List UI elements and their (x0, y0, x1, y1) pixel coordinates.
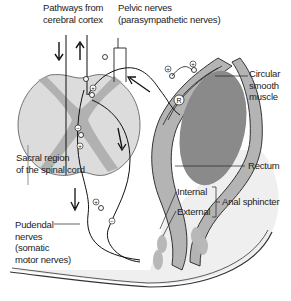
pelvic-nerves-label: Pelvic nerves (parasympathetic nerves) (118, 2, 220, 25)
receptor-symbol: R (174, 95, 184, 105)
neuron-node (84, 77, 89, 82)
circular-muscle-synapse (172, 67, 192, 76)
neuron-node (103, 55, 108, 60)
external-sphincter-right (198, 237, 208, 255)
svg-text:R: R (176, 97, 181, 104)
sensory-arrow-icon (128, 77, 150, 92)
up-arrow-icon (76, 42, 84, 60)
neuron-node (79, 133, 84, 138)
external-label: External (177, 206, 210, 218)
pathways-label: Pathways from cerebral cortex (43, 2, 103, 25)
rectum-label: Rectum (248, 160, 280, 172)
svg-text:+: + (191, 61, 195, 67)
internal-label: Internal (177, 186, 207, 198)
svg-text:−: − (76, 125, 80, 131)
sacral-region-label: Sacral region of the spinal cord (16, 152, 85, 175)
down-arrow-icon (55, 42, 63, 60)
neuron-node (99, 206, 104, 211)
pelvic-nerve-bracket (114, 38, 126, 82)
pudendal-arrow-icon (71, 188, 79, 210)
neuron-node (90, 93, 95, 98)
external-sphincter-left (153, 250, 163, 270)
pudendal-nerves-label: Pudendal nerves (somatic motor nerves) (15, 219, 71, 265)
anal-sphincter-label: Anal sphincter (222, 196, 279, 208)
svg-text:+: + (166, 66, 170, 72)
svg-text:+: + (94, 199, 98, 205)
circular-muscle-label: Circular smooth muscle (249, 68, 280, 103)
svg-text:+: + (91, 85, 95, 91)
svg-text:−: − (110, 218, 114, 224)
svg-text:+: + (78, 143, 82, 149)
neuron-node (192, 68, 197, 73)
